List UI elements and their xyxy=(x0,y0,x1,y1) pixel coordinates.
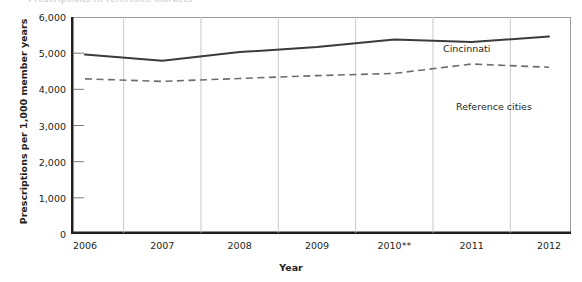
plot-area: Cincinnati Reference cities xyxy=(71,17,571,234)
chart-svg xyxy=(71,17,571,234)
y-axis-tick-label: 5,000 xyxy=(22,48,66,59)
y-axis-tick-label: 1,000 xyxy=(22,192,66,203)
x-axis-tick-label: 2009 xyxy=(282,240,352,251)
x-axis-tick-label: 2007 xyxy=(127,240,197,251)
y-axis-tick-label: 6,000 xyxy=(22,12,66,23)
x-axis-tick-labels: 20062007200820092010**20112012 xyxy=(71,240,571,256)
x-axis-tick-label: 2011 xyxy=(437,240,507,251)
y-axis-tick-label: 4,000 xyxy=(22,84,66,95)
cropped-title-remnant: Prescriptions ... reference markets xyxy=(28,0,278,4)
y-axis-tick-marks xyxy=(73,53,84,198)
series-label-reference-cities: Reference cities xyxy=(456,101,532,112)
y-axis-tick-label: 2,000 xyxy=(22,156,66,167)
x-axis-title: Year xyxy=(0,262,582,273)
y-axis-tick-label: 3,000 xyxy=(22,120,66,131)
y-axis-tick-label: 0 xyxy=(22,229,66,240)
x-axis-tick-label: 2012 xyxy=(514,240,582,251)
series-line-reference-cities xyxy=(85,64,549,81)
y-axis-tick-labels: 01,0002,0003,0004,0005,0006,000 xyxy=(20,17,66,234)
x-axis-tick-label: 2006 xyxy=(50,240,120,251)
x-axis-tick-label: 2008 xyxy=(205,240,275,251)
x-axis-tick-label: 2010** xyxy=(359,240,429,251)
chart-figure: Prescriptions ... reference markets Pres… xyxy=(0,0,582,282)
series-label-cincinnati: Cincinnati xyxy=(443,43,490,54)
